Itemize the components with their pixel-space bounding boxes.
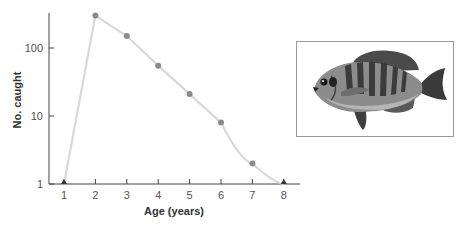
data-point [249,161,255,167]
data-point [92,13,98,19]
data-point [218,120,224,126]
x-tick-label: 5 [187,189,193,201]
fish-illustration-inset [296,41,454,137]
age-distribution-chart: 11010012345678 No. caught Age (years) [0,0,300,229]
x-tick-label: 8 [281,189,287,201]
x-tick-label: 2 [92,189,98,201]
series-line [64,16,284,184]
x-tick-label: 6 [218,189,224,201]
y-tick-label: 100 [25,42,43,54]
y-axis-title: No. caught [11,71,23,128]
x-tick-label: 7 [249,189,255,201]
bluegill-fish-icon [297,42,453,136]
data-series [61,13,287,184]
data-point [155,63,161,69]
y-tick-label: 1 [37,178,43,190]
x-axis-title: Age (years) [144,205,204,217]
data-point-triangle [281,179,287,184]
y-tick-label: 10 [31,110,43,122]
x-tick-label: 1 [61,189,67,201]
data-point [124,33,130,39]
data-point-triangle [61,179,67,184]
x-tick-label: 3 [124,189,130,201]
data-point [187,91,193,97]
x-tick-label: 4 [155,189,161,201]
